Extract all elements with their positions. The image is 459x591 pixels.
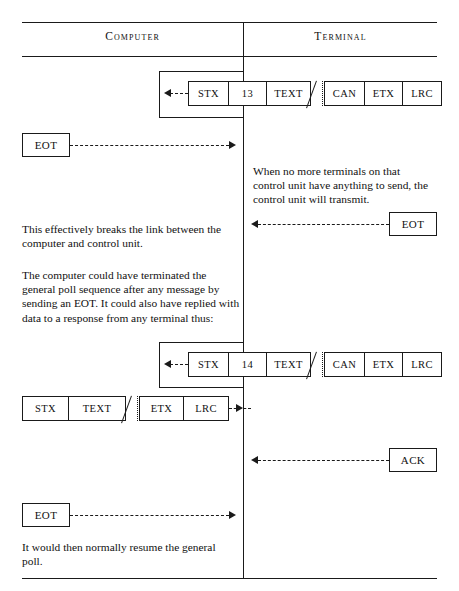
frame13-cell-stx: STX [188,81,228,106]
note-terminate-sequence-text: The computer could have terminated the g… [22,268,242,325]
eot2-arrowhead [229,511,236,519]
frame1-connector-rise [243,117,244,131]
frame14-cell-lrc: LRC [402,352,442,377]
eot1-arrowhead [229,141,236,149]
message-frame-computer-data: STX TEXT ETX LRC [22,396,229,421]
framedata-cell-lrc: LRC [183,396,229,421]
frame13-cell-etx: ETX [364,81,402,106]
frame1-connector-left [159,71,160,118]
eot1-arrow-line [70,145,229,146]
frame14-cell-text: TEXT [266,352,311,377]
frame1-connector-drop [243,58,244,72]
frame14-cell-stx: STX [188,352,228,377]
note-terminate-sequence: The computer could have terminated the g… [22,268,242,325]
framedata-cell-etx: ETX [139,396,183,421]
frame2-connector-bottom [159,387,244,388]
page-running-head [435,0,445,11]
eot-box-computer-2: EOT [22,503,70,527]
frame1-connector-top [159,71,244,72]
frame13-cell-can: CAN [324,81,364,106]
frame1-arrow-line [170,93,188,94]
note-breaks-link: This effectively breaks the link between… [22,222,237,250]
frame2-arrowhead [164,360,171,368]
frame14-cell-etx: ETX [364,352,402,377]
frame2-arrow-line [170,364,188,365]
framedata-break-marker [126,396,139,421]
frame2-connector-top [159,342,244,343]
eot-terminal-arrow-line [258,224,389,225]
frame14-cell-can: CAN [324,352,364,377]
eot-terminal-arrowhead [251,220,258,228]
frame13-cell-lrc: LRC [402,81,442,106]
note-resume-poll-text: It would then normally resume the genera… [22,540,237,568]
frame1-connector-bottom [159,117,244,118]
column-header-terminal: Terminal [244,30,437,42]
framedata-cell-text: TEXT [68,396,126,421]
table-top-rule [22,22,437,23]
frame13-break-marker [311,81,324,106]
frame13-cell-text: TEXT [266,81,311,106]
note-resume-poll: It would then normally resume the genera… [22,540,237,568]
eot2-arrow-line [70,515,229,516]
table-header-rule [22,56,437,57]
ack-box-terminal: ACK [389,448,437,472]
frame13-cell-seq: 13 [228,81,266,106]
message-frame-14: STX 14 TEXT CAN ETX LRC [188,352,442,377]
table-bottom-rule [22,578,437,579]
frame2-connector-left [159,342,160,388]
diagram-page: Computer Terminal STX 13 TEXT CAN ETX LR… [0,0,459,591]
column-header-computer: Computer [22,30,243,42]
frame1-arrowhead [164,89,171,97]
note-terminal-transmit-text: When no more terminals on that control u… [253,164,434,207]
message-frame-13: STX 13 TEXT CAN ETX LRC [188,81,442,106]
note-breaks-link-text: This effectively breaks the link between… [22,222,237,250]
eot-box-computer-1: EOT [22,133,70,157]
frame14-break-marker [311,352,324,377]
ack-arrow-line [258,460,389,461]
frame2-connector-rise [243,387,244,400]
ack-arrowhead [251,456,258,464]
note-terminal-transmit: When no more terminals on that control u… [253,164,434,207]
frame14-cell-seq: 14 [228,352,266,377]
framedata-arrowhead [236,404,243,412]
framedata-cell-stx: STX [22,396,68,421]
eot-box-terminal: EOT [389,212,437,236]
